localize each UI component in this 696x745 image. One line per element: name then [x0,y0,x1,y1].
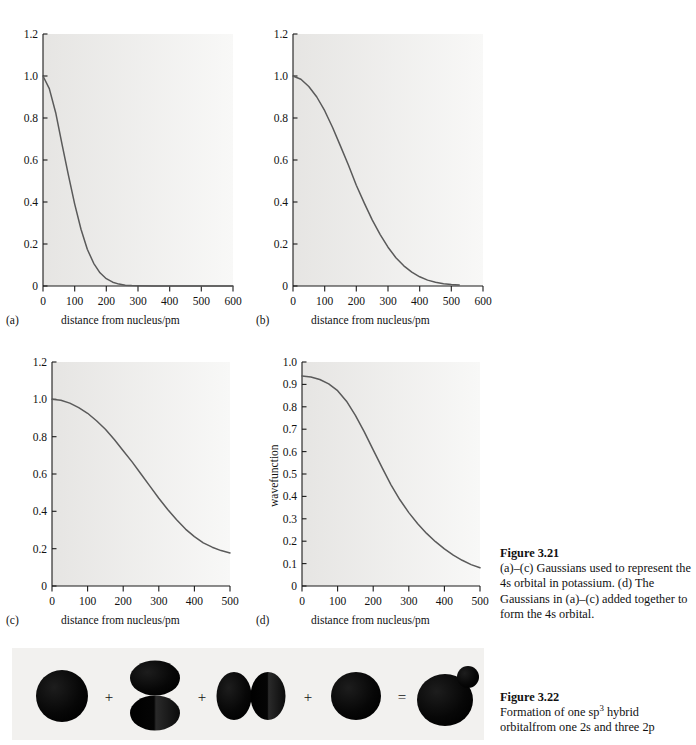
svg-text:0.2: 0.2 [283,535,298,547]
svg-text:0.2: 0.2 [274,238,289,250]
svg-text:0.8: 0.8 [24,112,39,124]
panel-c-xlabel: distance from nucleus/pm [61,614,180,626]
svg-text:0.6: 0.6 [283,446,298,458]
panel-d-xtick-labels: 0 100 200 300 400 500 [299,595,489,607]
svg-text:400: 400 [411,295,429,307]
svg-text:0: 0 [40,295,46,307]
panel-d-ylabel: wavefunction [268,444,280,507]
plus-sign: + [105,689,113,705]
panel-a-xtick-labels: 0 100 200 300 400 500 600 [40,295,242,307]
svg-text:0.5: 0.5 [283,468,298,480]
figure-3-22-caption: Figure 3.22 Formation of one sp3 hybrid … [500,690,690,738]
panel-c-xtick-labels: 0 100 200 300 400 500 [49,595,239,607]
svg-text:1.2: 1.2 [24,28,39,40]
svg-text:1.2: 1.2 [33,356,48,368]
figure-3-21-body: (a)–(c) Gaussians used to represent the … [500,561,696,622]
svg-text:0.8: 0.8 [33,431,48,443]
svg-text:0.8: 0.8 [283,401,298,413]
2p-orbital-lobe [331,672,381,720]
svg-text:400: 400 [436,595,454,607]
panel-a-letter: (a) [6,314,19,326]
plus-sign: + [198,689,206,705]
svg-text:500: 500 [221,595,239,607]
svg-text:0: 0 [41,580,47,592]
svg-text:200: 200 [348,295,366,307]
sp3-hybrid-orbital [417,666,479,726]
orbital-diagram-svg: + + + = [12,648,484,740]
2p-orbital-horizontal [217,672,286,720]
svg-text:0.6: 0.6 [24,154,39,166]
svg-text:0: 0 [290,295,296,307]
svg-text:0.4: 0.4 [274,196,289,208]
panel-b-xtick-labels: 0 100 200 300 400 500 600 [290,295,492,307]
chart-panel-a: 1.2 1.0 0.8 0.6 0.4 0.2 0 0 100 200 300 … [0,22,250,322]
svg-text:1.2: 1.2 [274,28,289,40]
panel-c-letter: (c) [6,614,19,626]
plus-sign: + [304,689,312,705]
svg-text:100: 100 [66,295,84,307]
svg-text:300: 300 [150,595,168,607]
svg-text:1.0: 1.0 [283,356,298,368]
svg-text:0: 0 [299,595,305,607]
svg-text:0.6: 0.6 [33,468,48,480]
panel-d-plot: 1.0 0.9 0.8 0.7 0.6 0.5 0.4 0.3 0.2 0.1 … [250,352,500,632]
sp3-hybridisation-diagram: + + + = [12,648,484,740]
svg-text:100: 100 [316,295,334,307]
figure-3-21-title: Figure 3.21 [500,546,696,561]
svg-text:500: 500 [443,295,461,307]
svg-text:0: 0 [49,595,55,607]
svg-text:300: 300 [400,595,418,607]
svg-text:1.0: 1.0 [274,70,289,82]
svg-text:0: 0 [32,280,38,292]
svg-text:0.7: 0.7 [283,423,298,435]
svg-text:1.0: 1.0 [33,393,48,405]
figure-3-22-title: Figure 3.22 [500,690,690,705]
svg-text:200: 200 [115,595,133,607]
svg-text:300: 300 [129,295,147,307]
figure-3-22-body: Formation of one sp3 hybrid orbitalfrom … [500,705,690,738]
svg-text:0.2: 0.2 [33,543,48,555]
2s-orbital [36,670,88,722]
svg-text:0.4: 0.4 [24,196,39,208]
chart-panel-c: 1.2 1.0 0.8 0.6 0.4 0.2 0 0 100 200 300 … [0,352,250,632]
svg-text:0.9: 0.9 [283,378,298,390]
svg-text:0: 0 [282,280,288,292]
equals-sign: = [398,689,406,705]
svg-text:600: 600 [474,295,492,307]
svg-text:0.8: 0.8 [274,112,289,124]
svg-text:0.4: 0.4 [283,490,298,502]
panel-a-ytick-labels: 1.2 1.0 0.8 0.6 0.4 0.2 0 [24,28,39,292]
chart-panel-d: 1.0 0.9 0.8 0.7 0.6 0.5 0.4 0.3 0.2 0.1 … [250,352,500,632]
svg-text:200: 200 [98,295,116,307]
2p-orbital-vertical [130,661,180,731]
svg-text:300: 300 [379,295,397,307]
svg-text:0.2: 0.2 [24,238,39,250]
svg-text:400: 400 [186,595,204,607]
svg-text:0.4: 0.4 [33,505,48,517]
svg-text:100: 100 [329,595,347,607]
svg-text:0.6: 0.6 [274,154,289,166]
panel-b-letter: (b) [256,314,269,326]
panel-d-ytick-labels: 1.0 0.9 0.8 0.7 0.6 0.5 0.4 0.3 0.2 0.1 … [283,356,298,592]
panel-a-plot-area [43,34,233,286]
chart-panel-b: 1.2 1.0 0.8 0.6 0.4 0.2 0 0 100 200 300 … [250,22,500,322]
svg-text:100: 100 [79,595,97,607]
panel-b-xlabel: distance from nucleus/pm [311,314,430,326]
panel-d-letter: (d) [256,614,269,626]
panel-d-plot-area [302,362,480,586]
panel-d-xlabel: distance from nucleus/pm [311,614,430,626]
svg-text:1.0: 1.0 [24,70,39,82]
svg-text:0.1: 0.1 [283,558,298,570]
svg-text:400: 400 [161,295,179,307]
panel-a-xlabel: distance from nucleus/pm [61,314,180,326]
panel-b-plot: 1.2 1.0 0.8 0.6 0.4 0.2 0 0 100 200 300 … [250,22,500,322]
svg-text:500: 500 [193,295,211,307]
svg-text:500: 500 [471,595,489,607]
svg-text:0: 0 [291,580,297,592]
figure-3-22-body-part1: Formation of one sp [500,705,599,719]
panel-c-plot: 1.2 1.0 0.8 0.6 0.4 0.2 0 0 100 200 300 … [0,352,250,632]
svg-text:600: 600 [224,295,242,307]
panel-a-plot: 1.2 1.0 0.8 0.6 0.4 0.2 0 0 100 200 300 … [0,22,250,322]
panel-b-ytick-labels: 1.2 1.0 0.8 0.6 0.4 0.2 0 [274,28,289,292]
panel-c-ytick-labels: 1.2 1.0 0.8 0.6 0.4 0.2 0 [33,356,48,592]
